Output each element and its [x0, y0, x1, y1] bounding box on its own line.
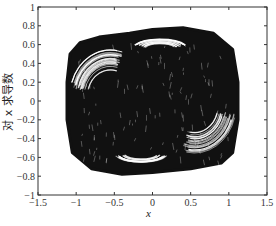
x-tick-label: −1 [71, 197, 82, 208]
x-tick-label: 1 [226, 197, 231, 208]
x-axis-label: x [146, 207, 151, 219]
y-tick-label: 0.4 [23, 58, 36, 69]
x-tick-label: 1.5 [261, 197, 274, 208]
y-tick-label: −0.8 [17, 171, 35, 182]
x-tick-label: 0.5 [184, 197, 197, 208]
y-tick-label: −0.6 [17, 152, 35, 163]
trajectory-series [67, 28, 238, 175]
y-tick-label: 0.6 [23, 39, 36, 50]
y-tick-label: −0.2 [17, 114, 35, 125]
y-axis-label: 对 x 求导数 [0, 62, 14, 142]
y-tick-label: 1 [30, 2, 35, 13]
phase-portrait-figure: −1.5−1−0.500.511.510.80.60.40.20−0.2−0.4… [0, 0, 276, 226]
x-tick-label: −0.5 [105, 197, 123, 208]
y-tick-label: 0.2 [23, 77, 36, 88]
y-tick-label: −1 [24, 190, 35, 201]
y-tick-label: 0 [30, 96, 35, 107]
y-tick-label: 0.8 [23, 20, 36, 31]
y-tick-label: −0.4 [17, 133, 35, 144]
plot-area: −1.5−1−0.500.511.510.80.60.40.20−0.2−0.4… [0, 0, 276, 226]
